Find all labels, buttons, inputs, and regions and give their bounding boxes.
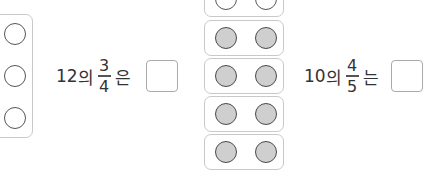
empty-circle-icon xyxy=(4,23,26,45)
problem-2-particle-of: 의 xyxy=(326,64,342,89)
problem-2-expression: 10 의 4 5 는 xyxy=(304,60,379,92)
empty-circle-icon xyxy=(215,0,237,10)
problem-1-denominator: 4 xyxy=(99,78,109,95)
problem-1-particle-of: 의 xyxy=(78,64,94,89)
problem-1-answer-box[interactable] xyxy=(146,60,178,92)
right-circle-group-1 xyxy=(204,0,284,17)
right-circle-group-5 xyxy=(204,134,284,170)
problem-2-denominator: 5 xyxy=(347,78,357,95)
problem-1-particle-topic: 은 xyxy=(115,64,131,89)
problem-2-fraction: 4 5 xyxy=(346,57,359,94)
problem-2-whole: 10 xyxy=(304,66,326,86)
right-circle-group-4 xyxy=(204,96,284,132)
problem-1-fraction: 3 4 xyxy=(98,57,111,94)
right-circle-group-2 xyxy=(204,20,284,56)
right-circle-group-3 xyxy=(204,58,284,94)
empty-circle-icon xyxy=(4,107,26,129)
problem-2-answer-box[interactable] xyxy=(391,60,423,92)
empty-circle-icon xyxy=(4,65,26,87)
filled-circle-icon xyxy=(255,103,277,125)
problem-1-whole: 12 xyxy=(56,66,78,86)
problem-1-numerator: 3 xyxy=(99,57,109,74)
filled-circle-icon xyxy=(215,103,237,125)
left-circle-group xyxy=(0,14,33,138)
problem-1-expression: 12 의 3 4 은 xyxy=(56,60,131,92)
filled-circle-icon xyxy=(215,27,237,49)
filled-circle-icon xyxy=(255,65,277,87)
problem-2-numerator: 4 xyxy=(347,57,357,74)
filled-circle-icon xyxy=(215,65,237,87)
problem-2-particle-topic: 는 xyxy=(363,64,379,89)
filled-circle-icon xyxy=(255,27,277,49)
filled-circle-icon xyxy=(255,141,277,163)
empty-circle-icon xyxy=(255,0,277,10)
filled-circle-icon xyxy=(215,141,237,163)
